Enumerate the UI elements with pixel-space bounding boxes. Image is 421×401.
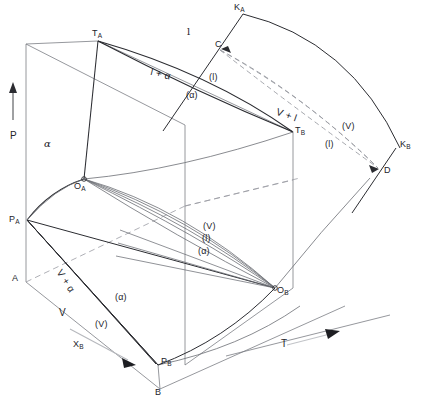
arrowhead-to-D: [369, 165, 379, 173]
temperature-axis-line: [226, 315, 390, 356]
line-KA-through-C: [163, 14, 243, 131]
box-edge-front-bottom-right: [160, 306, 345, 389]
vertex-label-KB: KB: [400, 140, 411, 149]
curve-PB-OB: [158, 288, 275, 365]
pressure-axis-arrow: [9, 82, 17, 120]
vertex-label-OA: OA: [74, 182, 86, 191]
vertex-label-TB: TB: [295, 126, 305, 135]
vertex-label-PA: PA: [9, 215, 20, 224]
axis-label-composition: XB: [73, 340, 84, 349]
curve-label-alpha-upper: (α): [186, 91, 198, 100]
box-edge-topleft: [26, 41, 98, 44]
curve-label-vapour-right: (V): [342, 122, 355, 131]
field-label-liquid: l: [187, 27, 190, 37]
curve-TA-OA: [84, 41, 98, 179]
box-edge-back-diagonal: [26, 44, 185, 125]
line-to-OB-2: [118, 243, 275, 288]
curve-label-alpha-mid: (α): [198, 247, 210, 256]
curve-OA-OB-vapour: [84, 179, 275, 288]
axis-label-temperature: T: [281, 339, 287, 349]
curve-OA-lower-to-OB: [84, 179, 275, 288]
line-to-OB-1: [120, 230, 275, 288]
oa-fan-curves: [84, 179, 275, 288]
vertex-markers: [82, 177, 278, 291]
vertex-label-PB: PB: [161, 357, 172, 366]
curve-label-vapour-mid: (V): [203, 222, 216, 231]
curve-OB-up-right: [275, 178, 370, 288]
line-PB-fan-1: [27, 220, 158, 365]
ob-convergence-lines: [116, 230, 275, 288]
temperature-axis-arrow: [287, 329, 340, 345]
phase-diagram-figure: TA TB OA OB PA PB KA KB A B C D α l l + …: [0, 0, 421, 401]
box-edge-front-bottom-left: [26, 282, 160, 389]
field-label-vapour: V: [59, 308, 66, 318]
curve-label-alpha-lower: (α): [115, 293, 127, 302]
curve-OA-OB-extra: [84, 179, 275, 288]
diagram-canvas: [0, 0, 421, 401]
box-edge-top-right: [98, 41, 293, 132]
curve-label-liquid-right: (l): [325, 140, 334, 149]
vertex-label-TA: TA: [92, 29, 102, 38]
curve-OA-through-to-TB: [84, 132, 293, 179]
vertex-label-KA: KA: [234, 3, 245, 12]
curve-label-liquid-mid: (l): [202, 234, 211, 243]
prism-framework: [26, 41, 390, 389]
vertex-label-C: C: [215, 40, 222, 49]
field-label-alpha: α: [44, 139, 51, 149]
hidden-edge-A-diagonal: [26, 206, 185, 282]
vertex-label-A: A: [12, 274, 18, 283]
hidden-edge-back-diag-2: [185, 178, 300, 206]
box-edge-B-vertical: [158, 365, 160, 389]
alpha-field-curves: [27, 41, 98, 220]
vertex-label-D: D: [384, 166, 391, 175]
curve-label-liquid-upper: (l): [209, 73, 218, 82]
curve-label-vapour-lower: (V): [95, 320, 108, 329]
curve-OA-OB-liquid: [84, 179, 275, 288]
curve-OA-OB-alpha: [84, 179, 275, 288]
axis-label-pressure: P: [10, 131, 17, 141]
vertex-label-OB: OB: [277, 286, 289, 295]
curve-KA-KB-critical: [243, 14, 400, 148]
line-KB-through-D: [352, 148, 396, 213]
vertex-label-B: B: [155, 388, 161, 397]
